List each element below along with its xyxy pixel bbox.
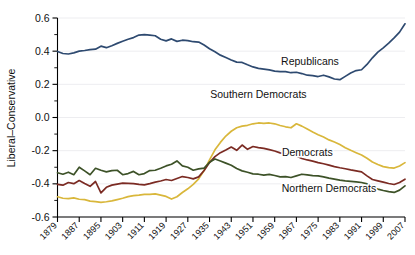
series-line-republicans [58,24,406,80]
x-tick-label: 1967 [277,220,298,241]
series-label-democrats: Democrats [282,146,333,158]
y-axis-title: Liberal–Conservative [5,69,17,168]
series-inline-labels: RepublicansRepublicansSouthern Democrats… [210,55,376,194]
y-tick-label: -0.6 [31,211,49,223]
y-axis-ticks [53,18,58,217]
x-tick-label: 1959 [255,220,276,241]
x-tick-label: 1911 [125,220,146,241]
x-tick-label: 1991 [342,220,363,241]
series-label-northern-democrats: Northern Democrats [282,182,377,194]
y-tick-label: -0.2 [31,144,49,156]
x-tick-label: 1983 [320,220,341,241]
x-tick-label: 1887 [59,220,80,241]
x-tick-label: 2007 [385,220,406,241]
y-tick-label: 0.6 [35,12,50,24]
y-tick-label: -0.4 [31,177,49,189]
x-tick-label: 1919 [146,220,167,241]
y-tick-label: 0.0 [35,111,50,123]
x-tick-label: 1935 [190,220,211,241]
y-tick-label: 0.2 [35,78,50,90]
x-tick-label: 1975 [298,220,319,241]
x-tick-label: 1927 [168,220,189,241]
x-axis-ticks [58,217,406,222]
polarization-line-chart: 0.60.40.20.0-0.2-0.4-0.6 187918871895190… [0,0,415,255]
series-label-southern-democrats: Southern Democrats [210,88,306,100]
x-tick-label: 1943 [211,220,232,241]
chart-canvas: 0.60.40.20.0-0.2-0.4-0.6 187918871895190… [0,0,415,255]
y-tick-label: 0.4 [35,45,50,57]
x-tick-label: 1903 [103,220,124,241]
data-series-lines [58,24,406,203]
y-axis-tick-labels: 0.60.40.20.0-0.2-0.4-0.6 [31,12,49,223]
series-label-republicans: Republicans [281,55,339,67]
x-tick-label: 1999 [363,220,384,241]
x-tick-label: 1895 [81,220,102,241]
x-tick-label: 1879 [38,220,59,241]
x-tick-label: 1951 [233,220,254,241]
x-axis-tick-labels: 1879188718951903191119191927193519431951… [38,220,407,241]
